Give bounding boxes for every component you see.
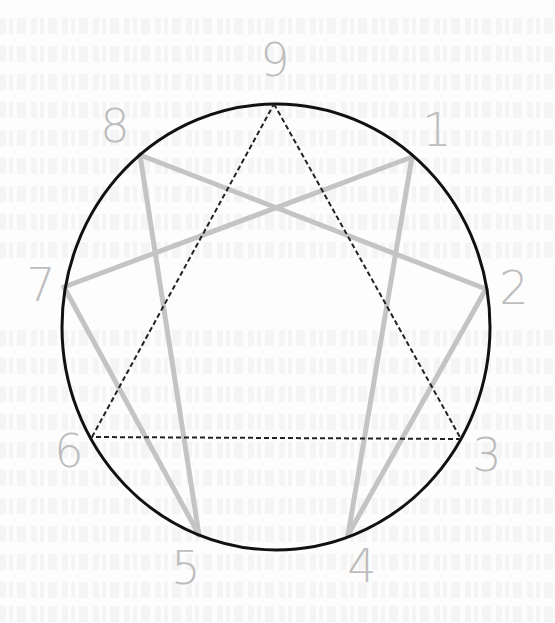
- point-label-6: 6: [54, 428, 83, 474]
- point-label-3: 3: [472, 432, 501, 478]
- point-label-7: 7: [26, 262, 55, 308]
- point-label-2: 2: [499, 265, 528, 311]
- scanned-page: 123456789: [0, 0, 555, 623]
- point-label-9: 9: [260, 37, 289, 83]
- enneagram-circle: [62, 104, 490, 550]
- enneagram-diagram: [0, 0, 555, 623]
- point-label-8: 8: [100, 103, 129, 149]
- triangle-lines: [92, 104, 461, 439]
- hexad-lines: [64, 155, 486, 535]
- point-label-1: 1: [422, 107, 451, 153]
- point-label-4: 4: [347, 543, 376, 589]
- point-label-5: 5: [171, 545, 200, 591]
- triangle-line-6-9: [92, 104, 274, 437]
